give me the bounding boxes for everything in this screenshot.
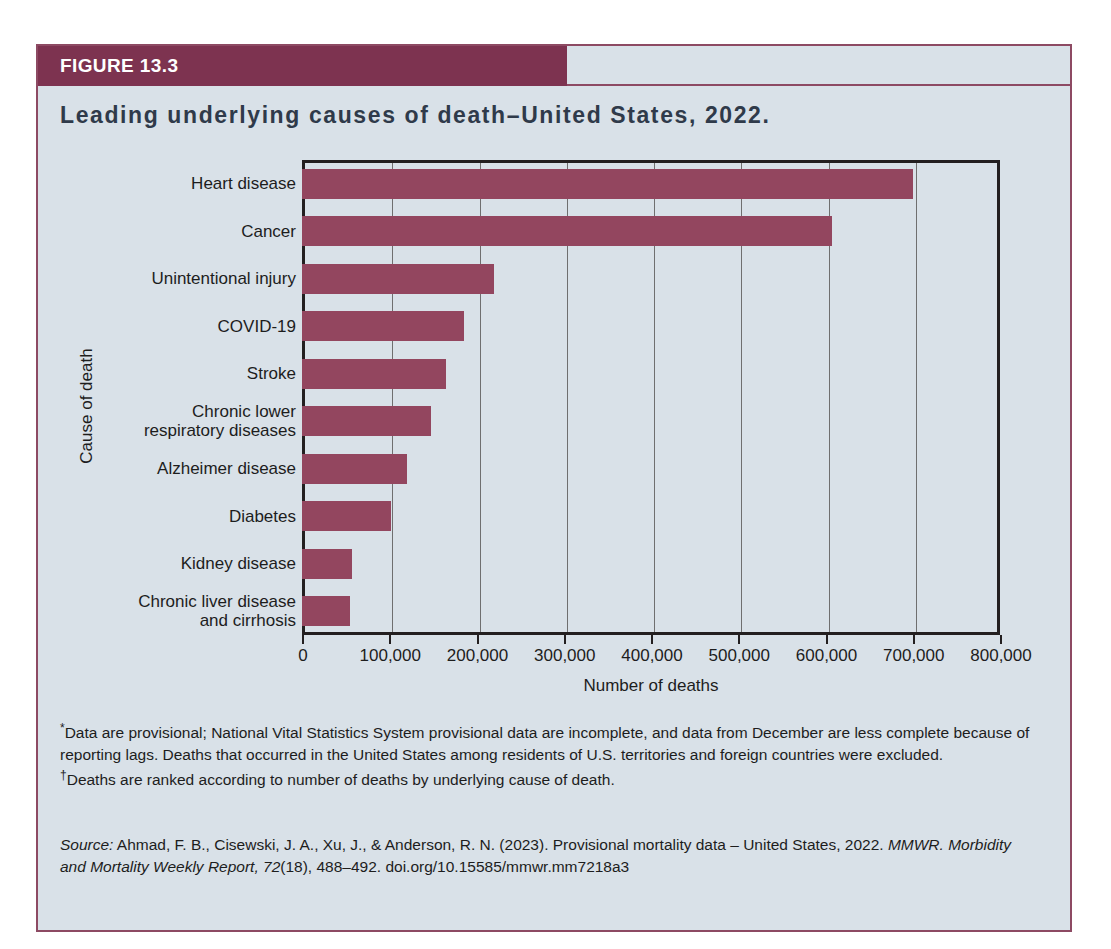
y-axis-tick-label: Heart disease: [44, 174, 296, 193]
y-axis-tick-label: Chronic liver diseaseand cirrhosis: [44, 592, 296, 630]
y-axis-tick-label-line: Kidney disease: [44, 554, 296, 573]
x-axis-tick: [302, 635, 304, 644]
figure-page: FIGURE 13.3 Leading underlying causes of…: [0, 0, 1111, 949]
y-axis-tick-label: Diabetes: [44, 507, 296, 526]
bar-row: [302, 540, 1000, 588]
figure-note-2: †Deaths are ranked according to number o…: [60, 765, 1040, 791]
x-axis-tick-label: 300,000: [534, 646, 595, 666]
note-2-marker: †: [60, 768, 67, 782]
bar: [302, 359, 446, 389]
y-axis-tick-label: Kidney disease: [44, 554, 296, 573]
bar: [302, 406, 431, 436]
x-axis-tick: [389, 635, 391, 644]
figure-number-label: FIGURE 13.3: [60, 55, 178, 77]
y-axis-tick-label-line: COVID-19: [44, 317, 296, 336]
bar: [302, 264, 494, 294]
figure-title: Leading underlying causes of death–Unite…: [60, 102, 770, 129]
bars-layer: [302, 160, 1000, 635]
x-axis-tick: [1000, 635, 1002, 644]
bar-row: [302, 493, 1000, 541]
x-axis-tick-label: 800,000: [970, 646, 1031, 666]
y-axis-tick-label-line: respiratory diseases: [44, 421, 296, 440]
bar: [302, 596, 350, 626]
note-2-text: Deaths are ranked according to number of…: [67, 771, 615, 788]
figure-note-1: *Data are provisional; National Vital St…: [60, 718, 1040, 765]
figure-notes: *Data are provisional; National Vital St…: [60, 718, 1040, 791]
note-1-text: Data are provisional; National Vital Sta…: [60, 724, 1029, 763]
x-axis-tick: [913, 635, 915, 644]
y-axis-tick-label-line: Unintentional injury: [44, 269, 296, 288]
x-axis-tick: [738, 635, 740, 644]
chart: Cause of death Heart diseaseCancerUninte…: [38, 146, 1070, 706]
x-axis-tick-label: 200,000: [447, 646, 508, 666]
y-axis-tick-label: Unintentional injury: [44, 269, 296, 288]
x-axis-tick: [826, 635, 828, 644]
bar: [302, 454, 407, 484]
x-axis-tick: [477, 635, 479, 644]
figure-header-band: FIGURE 13.3: [38, 46, 567, 86]
y-axis-tick-label: COVID-19: [44, 317, 296, 336]
bar: [302, 216, 832, 246]
source-label: Source:: [60, 836, 113, 853]
y-axis-tick-label: Alzheimer disease: [44, 459, 296, 478]
bar-row: [302, 398, 1000, 446]
y-axis-tick-label-line: Alzheimer disease: [44, 459, 296, 478]
y-axis-tick-label-line: Stroke: [44, 364, 296, 383]
bar: [302, 549, 352, 579]
y-axis-tick-label: Cancer: [44, 222, 296, 241]
y-axis-tick-labels: Heart diseaseCancerUnintentional injuryC…: [38, 160, 296, 635]
x-axis-tick: [651, 635, 653, 644]
bar-row: [302, 208, 1000, 256]
figure-source: Source: Ahmad, F. B., Cisewski, J. A., X…: [60, 834, 1040, 878]
bar-row: [302, 303, 1000, 351]
bar-row: [302, 255, 1000, 303]
y-axis-tick-label-line: Cancer: [44, 222, 296, 241]
y-axis-tick-label-line: Chronic lower: [44, 402, 296, 421]
y-axis-tick-label: Chronic lowerrespiratory diseases: [44, 402, 296, 440]
y-axis-tick-label-line: Chronic liver disease: [44, 592, 296, 611]
bar: [302, 169, 913, 199]
x-axis-tick-label: 0: [298, 646, 307, 666]
y-axis-tick-label-line: Diabetes: [44, 507, 296, 526]
x-axis-tick-label: 100,000: [360, 646, 421, 666]
bar-row: [302, 160, 1000, 208]
source-text-a: Ahmad, F. B., Cisewski, J. A., Xu, J., &…: [113, 836, 888, 853]
bar: [302, 311, 464, 341]
y-axis-tick-label: Stroke: [44, 364, 296, 383]
bar: [302, 501, 391, 531]
bar-row: [302, 445, 1000, 493]
x-axis-tick-label: 700,000: [883, 646, 944, 666]
x-axis-title: Number of deaths: [302, 676, 1000, 696]
figure-header-filler: [567, 46, 1070, 86]
bar-row: [302, 350, 1000, 398]
x-axis-tick: [564, 635, 566, 644]
x-axis-tick-label: 400,000: [621, 646, 682, 666]
source-text-b: (18), 488–492. doi.org/10.15585/mmwr.mm7…: [280, 858, 629, 875]
x-axis-tick-label: 600,000: [796, 646, 857, 666]
y-axis-tick-label-line: Heart disease: [44, 174, 296, 193]
x-axis-tick-label: 500,000: [709, 646, 770, 666]
bar-row: [302, 588, 1000, 636]
y-axis-tick-label-line: and cirrhosis: [44, 611, 296, 630]
figure-container: FIGURE 13.3 Leading underlying causes of…: [36, 44, 1072, 932]
